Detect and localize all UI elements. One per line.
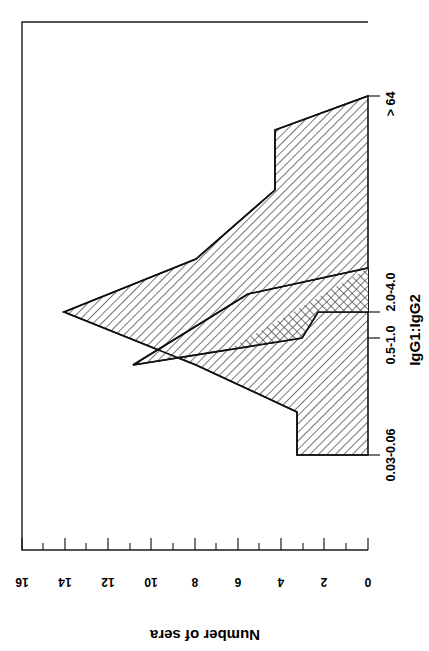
value-axis-title: Number of sera <box>149 627 260 644</box>
value-tick-14: 14 <box>58 575 72 589</box>
category-tick-0: 0.03-0.06 <box>384 429 398 482</box>
value-tick-8: 8 <box>191 575 198 589</box>
value-tick-12: 12 <box>101 575 115 589</box>
value-tick-6: 6 <box>234 575 241 589</box>
category-axis-title: IgG1:IgG2 <box>406 294 423 366</box>
value-tick-2: 2 <box>320 575 327 589</box>
category-tick-3: > 64 <box>384 92 398 117</box>
value-tick-10: 10 <box>144 575 158 589</box>
frequency-polygon-chart: 16 14 12 10 8 6 4 2 0 Number of sera 0.0… <box>0 0 429 651</box>
value-tick-4: 4 <box>277 575 284 589</box>
category-tick-2: 2.0-4.0 <box>384 272 398 311</box>
value-tick-0: 0 <box>364 575 371 589</box>
value-tick-16: 16 <box>15 575 29 589</box>
category-tick-1: 0.5-1.0 <box>384 325 398 364</box>
